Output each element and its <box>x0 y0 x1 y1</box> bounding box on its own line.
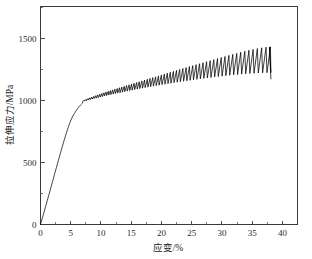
y-tick-label: 0 <box>32 220 37 230</box>
x-tick-label: 25 <box>187 228 197 238</box>
x-tick-label: 40 <box>278 228 288 238</box>
x-tick-label: 15 <box>127 228 137 238</box>
y-axis-title: 拉伸应力/MPa <box>4 84 15 145</box>
stress-strain-figure: 0510152025303540 050010001500 应变/% 拉伸应力/… <box>0 0 312 259</box>
y-axis-tick-labels: 050010001500 <box>19 34 38 230</box>
x-axis-ticks <box>41 221 283 225</box>
y-axis-ticks <box>41 8 45 225</box>
x-axis-tick-labels: 0510152025303540 <box>38 228 287 238</box>
plot-frame <box>41 7 298 225</box>
y-tick-label: 500 <box>23 158 37 168</box>
x-tick-label: 35 <box>248 228 258 238</box>
x-axis-title: 应变/% <box>153 242 184 253</box>
x-tick-label: 30 <box>217 228 227 238</box>
x-tick-label: 10 <box>96 228 106 238</box>
data-curve-group <box>41 47 271 225</box>
x-tick-label: 0 <box>38 228 43 238</box>
chart-canvas: 0510152025303540 050010001500 应变/% 拉伸应力/… <box>0 0 312 259</box>
y-tick-label: 1000 <box>19 96 38 106</box>
plot-frame-rect <box>41 7 298 225</box>
stress-strain-curve <box>41 47 271 225</box>
x-tick-label: 5 <box>68 228 73 238</box>
y-tick-label: 1500 <box>19 34 38 44</box>
x-tick-label: 20 <box>157 228 167 238</box>
